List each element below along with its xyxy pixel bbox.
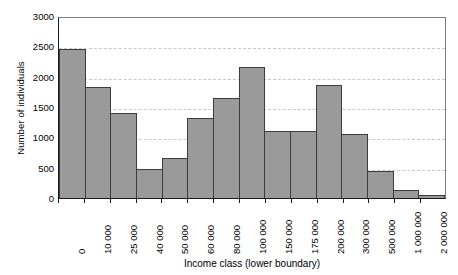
y-axis-tick-labels: 050010001500200025003000 — [12, 0, 54, 275]
plot-area — [58, 17, 446, 199]
y-tick-label: 3000 — [18, 12, 54, 22]
y-tick-label: 1500 — [18, 103, 54, 113]
x-tick-label: 60 000 — [205, 194, 217, 254]
y-tick-label: 500 — [18, 164, 54, 174]
histogram-figure: Number of individuals 050010001500200025… — [0, 0, 458, 275]
y-tick-label: 1000 — [18, 133, 54, 143]
bar — [162, 158, 189, 198]
bar — [316, 85, 343, 198]
x-tick-label: 40 000 — [154, 194, 166, 254]
x-tick-label: 500 000 — [386, 194, 398, 254]
bar — [239, 67, 266, 198]
x-tick-label: 100 000 — [257, 194, 269, 254]
x-axis-tick-labels: 010 00025 00040 00050 00060 00080 000100… — [58, 204, 446, 254]
x-tick-label: 175 000 — [309, 194, 321, 254]
x-tick-label: 300 000 — [360, 194, 372, 254]
x-tick-label: 150 000 — [283, 194, 295, 254]
x-tick-label: 80 000 — [231, 194, 243, 254]
bar — [341, 134, 368, 198]
bar — [290, 131, 317, 198]
x-tick-label: 10 000 — [102, 194, 114, 254]
x-axis-title: Income class (lower boundary) — [58, 257, 446, 270]
y-tick-label: 0 — [18, 194, 54, 204]
y-tick-label: 2000 — [18, 73, 54, 83]
x-tick-label: 0 — [76, 194, 88, 254]
y-tick-label: 2500 — [18, 42, 54, 52]
x-tick-mark — [58, 199, 59, 203]
bar — [85, 87, 112, 198]
bar — [59, 49, 86, 198]
bar — [264, 131, 291, 198]
bar — [187, 118, 214, 198]
x-tick-label: 2 000 000 — [438, 194, 450, 254]
x-tick-label: 50 000 — [179, 194, 191, 254]
bar — [213, 98, 240, 198]
bar — [110, 113, 137, 198]
bar-series — [59, 18, 445, 198]
x-tick-label: 200 000 — [335, 194, 347, 254]
x-tick-label: 1 000 000 — [412, 194, 424, 254]
x-tick-label: 25 000 — [128, 194, 140, 254]
